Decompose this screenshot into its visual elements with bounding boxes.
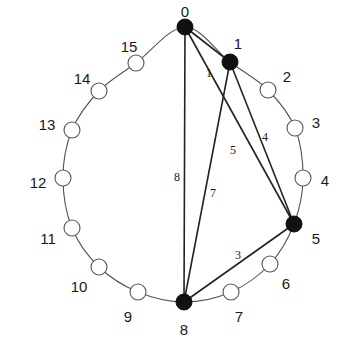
node-label-2: 2 <box>283 68 291 85</box>
node-label-10: 10 <box>71 278 88 295</box>
node-11 <box>64 220 80 236</box>
edge-weight-label-5-8: 3 <box>235 248 241 262</box>
node-10 <box>91 259 107 275</box>
node-label-15: 15 <box>121 38 138 55</box>
node-label-3: 3 <box>312 114 320 131</box>
node-3 <box>287 120 303 136</box>
nodes <box>55 19 311 310</box>
node-label-13: 13 <box>39 116 56 133</box>
node-label-11: 11 <box>40 230 56 247</box>
node-4 <box>295 170 311 186</box>
edge-labels: 158473 <box>174 66 268 262</box>
node-9 <box>130 284 146 300</box>
node-5-filled <box>286 216 302 232</box>
edge-weight-label-1-5: 4 <box>262 130 268 144</box>
node-label-4: 4 <box>321 172 329 189</box>
node-6 <box>262 256 278 272</box>
node-label-14: 14 <box>74 70 91 87</box>
node-0-filled <box>177 19 193 35</box>
edge-0-8 <box>184 27 185 302</box>
node-12 <box>55 170 71 186</box>
node-8-filled <box>176 294 192 310</box>
edge-weight-label-0-8: 8 <box>174 170 180 184</box>
node-label-6: 6 <box>282 275 290 292</box>
edge-weight-label-0-1: 1 <box>206 66 212 80</box>
ring-graph-diagram: 158473 0123456789101112131415 <box>0 0 353 350</box>
edge-1-8 <box>184 62 230 302</box>
edge-weight-label-0-5: 5 <box>230 143 236 157</box>
edge-0-1 <box>185 27 230 62</box>
node-13 <box>64 122 80 138</box>
node-1-filled <box>222 54 238 70</box>
node-label-1: 1 <box>234 35 242 52</box>
node-label-8: 8 <box>180 321 188 338</box>
edge-weight-label-1-8: 7 <box>210 186 216 200</box>
node-14 <box>91 83 107 99</box>
node-label-12: 12 <box>30 174 47 191</box>
node-label-7: 7 <box>235 308 243 325</box>
edge-0-5 <box>185 27 294 224</box>
node-15 <box>128 55 144 71</box>
node-label-5: 5 <box>312 230 320 247</box>
node-label-0: 0 <box>181 3 189 20</box>
node-7 <box>223 284 239 300</box>
node-label-9: 9 <box>124 308 132 325</box>
node-2 <box>260 82 276 98</box>
